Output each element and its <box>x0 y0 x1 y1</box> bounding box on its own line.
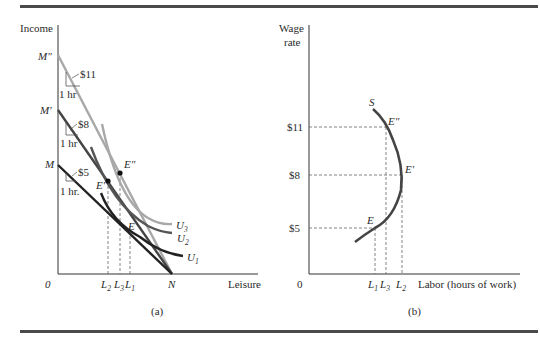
u2-label: U2 <box>177 232 189 247</box>
e-double-prime-label-b: E″ <box>387 115 400 127</box>
e-label-b: E <box>366 214 374 226</box>
wage-tick-5: $5 <box>289 222 301 234</box>
l3-tick-label-a: L3 <box>113 278 124 293</box>
panel-a: Income Leisure 0 M″ M′ M $11 1 hr $8 1 h… <box>20 22 261 318</box>
equilibrium-point-e-double-prime <box>117 170 122 175</box>
supply-curve-label: S <box>369 96 375 108</box>
wage-axis-label-line1: Wage <box>279 22 304 34</box>
wage-label-8: $8 <box>78 118 90 130</box>
l2-tick-label-a: L2 <box>100 278 111 293</box>
e-prime-label-b: E′ <box>404 163 415 175</box>
l3-tick-label-b: L3 <box>379 278 390 293</box>
l2-tick-label-b: L2 <box>395 278 406 293</box>
wage-tick-11: $11 <box>287 121 303 133</box>
e-prime-label-a: E′ <box>95 179 106 191</box>
leisure-axis-label: Leisure <box>228 278 261 290</box>
slope-leader-8 <box>72 124 77 128</box>
wage-tick-8: $8 <box>289 169 301 181</box>
origin-label-b: 0 <box>297 278 303 290</box>
m-double-prime-label: M″ <box>37 50 52 62</box>
figure-canvas: Income Leisure 0 M″ M′ M $11 1 hr $8 1 h… <box>0 0 540 341</box>
bottom-rule <box>20 330 538 333</box>
equilibrium-point-e-prime <box>105 178 110 183</box>
m-prime-label: M′ <box>39 104 52 116</box>
wage-label-11: $11 <box>80 68 96 80</box>
l1-tick-label-a: L1 <box>124 278 135 293</box>
hour-label-5: 1 hr. <box>60 185 80 197</box>
indifference-curve-u3 <box>102 124 172 224</box>
origin-label-a: 0 <box>45 278 51 290</box>
caption-b: (b) <box>408 305 421 318</box>
n-label: N <box>167 278 176 290</box>
hour-label-8: 1 hr <box>60 137 78 149</box>
e-double-prime-label-a: E″ <box>123 158 136 170</box>
top-rule <box>20 5 538 8</box>
l1-tick-label-b: L1 <box>367 278 378 293</box>
caption-a: (a) <box>151 305 164 318</box>
hour-label-11: 1 hr <box>59 88 77 100</box>
slope-leader-5 <box>72 172 77 176</box>
u1-label: U1 <box>187 251 199 266</box>
m-label: M <box>44 158 55 170</box>
labor-supply-curve <box>355 109 402 242</box>
wage-axis-label-line2: rate <box>284 36 301 48</box>
slope-leader-11 <box>72 74 79 78</box>
wage-label-5: $5 <box>78 166 90 178</box>
income-axis-label: Income <box>20 22 53 34</box>
labor-axis-label: Labor (hours of work) <box>418 278 516 291</box>
panel-b: Wage rate Labor (hours of work) 0 $11 $8… <box>279 22 520 318</box>
e-label-a: E <box>127 220 135 232</box>
